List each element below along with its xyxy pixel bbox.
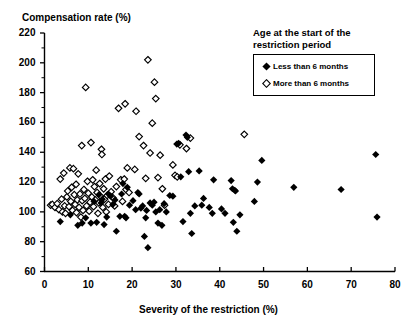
data-point [133, 108, 140, 115]
data-point [151, 79, 158, 86]
data-point [241, 131, 248, 138]
data-point [163, 208, 170, 215]
x-tick-label: 70 [339, 279, 363, 290]
y-tick-label: 140 [10, 146, 36, 157]
data-point [113, 183, 120, 190]
data-point [145, 57, 152, 64]
y-tick-label: 80 [10, 236, 36, 247]
data-point [115, 105, 122, 112]
x-tick-label: 30 [164, 279, 188, 290]
data-point [236, 211, 243, 218]
legend-entry-less-than-6-months: Less than 6 months [259, 60, 371, 73]
data-point [140, 142, 147, 149]
data-point [57, 176, 64, 183]
data-point [187, 210, 194, 217]
x-axis-title: Severity of the restriction (%) [0, 304, 417, 315]
data-point [131, 166, 138, 173]
data-point [157, 152, 164, 159]
data-point [188, 230, 195, 237]
data-point [60, 170, 67, 177]
data-point [149, 120, 156, 127]
data-point [372, 151, 379, 158]
data-point [147, 150, 154, 157]
data-point [136, 133, 143, 140]
data-point [144, 244, 151, 251]
data-point [155, 174, 162, 181]
data-point [99, 151, 106, 158]
data-point [124, 165, 131, 172]
data-point [88, 139, 95, 146]
data-point [142, 175, 149, 182]
x-tick-label: 60 [295, 279, 319, 290]
data-point [57, 218, 64, 225]
data-point [122, 101, 129, 108]
data-point [170, 162, 177, 169]
legend-label: Less than 6 months [273, 62, 348, 71]
legend: Age at the start of the restriction peri… [253, 27, 393, 96]
data-point [75, 171, 82, 178]
data-point [100, 185, 107, 192]
y-tick-label: 160 [10, 116, 36, 127]
data-point [258, 157, 265, 164]
data-point [196, 167, 203, 174]
y-tick-label: 180 [10, 87, 36, 98]
y-tick-label: 200 [10, 57, 36, 68]
data-point [100, 221, 107, 228]
scatter-plot-figure: Compensation rate (%) 220200180160140120… [0, 0, 417, 327]
legend-box: Less than 6 months More than 6 months [253, 54, 375, 96]
data-point [191, 202, 198, 209]
x-tick-label: 50 [252, 279, 276, 290]
legend-title: Age at the start of the restriction peri… [253, 27, 385, 50]
data-point [159, 185, 166, 192]
data-point [179, 218, 186, 225]
data-point [373, 213, 380, 220]
legend-label: More than 6 months [273, 79, 349, 88]
data-point [254, 178, 261, 185]
data-point [200, 195, 207, 202]
data-point [87, 219, 94, 226]
data-point [206, 204, 213, 211]
data-point [152, 95, 159, 102]
x-tick-label: 10 [76, 279, 100, 290]
data-point [198, 202, 205, 209]
data-point [185, 168, 192, 175]
y-tick-label: 100 [10, 206, 36, 217]
data-point [93, 167, 100, 174]
data-point [132, 206, 139, 213]
data-point [82, 84, 89, 91]
data-point [338, 186, 345, 193]
data-point [113, 228, 120, 235]
data-points-more-than-6-months [47, 57, 247, 221]
y-tick-label: 120 [10, 176, 36, 187]
data-point [230, 219, 237, 226]
data-point [141, 233, 148, 240]
data-point [103, 213, 110, 220]
data-point [119, 198, 126, 205]
x-tick-label: 20 [120, 279, 144, 290]
x-tick-label: 40 [208, 279, 232, 290]
x-tick-label: 80 [383, 279, 407, 290]
data-point [142, 214, 149, 221]
filled-diamond-icon [259, 62, 273, 71]
data-point [183, 145, 190, 152]
data-point [95, 210, 102, 217]
open-diamond-icon [259, 79, 273, 88]
data-point [78, 142, 85, 149]
data-point [233, 228, 240, 235]
legend-entry-more-than-6-months: More than 6 months [259, 77, 371, 90]
data-point [209, 210, 216, 217]
data-point [210, 176, 217, 183]
data-point [93, 219, 100, 226]
y-tick-label: 60 [10, 266, 36, 277]
data-point [228, 177, 235, 184]
y-tick-label: 220 [10, 27, 36, 38]
data-point [251, 198, 258, 205]
data-point [290, 184, 297, 191]
x-tick-label: 0 [33, 279, 57, 290]
